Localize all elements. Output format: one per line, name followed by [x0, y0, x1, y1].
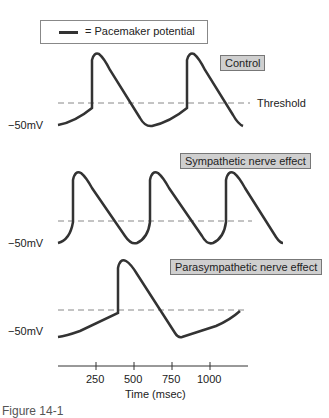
parasympathetic-ylabel: −50mV	[8, 325, 43, 337]
control-ylabel: −50mV	[8, 119, 43, 131]
x-axis-label: Time (msec)	[125, 388, 186, 400]
control-trace	[58, 54, 243, 127]
tick-250: 250	[86, 373, 104, 385]
tick-750: 750	[162, 373, 180, 385]
parasympathetic-badge: Parasympathetic nerve effect	[170, 259, 322, 275]
sympathetic-ylabel: −50mV	[8, 237, 43, 249]
tick-1000: 1000	[197, 373, 221, 385]
control-badge: Control	[220, 55, 265, 71]
threshold-label: Threshold	[257, 97, 306, 109]
sympathetic-badge: Sympathetic nerve effect	[180, 153, 311, 169]
sympathetic-trace	[58, 172, 283, 243]
tick-500: 500	[124, 373, 142, 385]
figure-caption: Figure 14-1	[2, 404, 63, 418]
